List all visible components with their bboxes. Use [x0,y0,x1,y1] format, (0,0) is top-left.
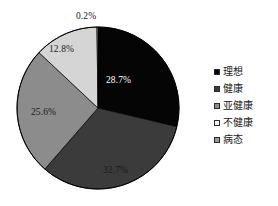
legend-item-unhealthy[interactable]: 不健康 [214,114,278,131]
legend-item-ideal[interactable]: 理想 [214,63,278,80]
pie-svg [0,0,196,206]
legend-label-healthy: 健康 [223,84,243,94]
pie-chart: 28.7% 32.7% 25.6% 12.8% 0.2% 理想 健康 亚健康 不… [0,0,278,206]
slice-label-ideal: 28.7% [106,76,131,86]
legend-item-subhealthy[interactable]: 亚健康 [214,97,278,114]
legend-swatch-ideal-icon [214,69,220,75]
legend-swatch-unhealthy-icon [214,120,220,126]
legend-swatch-morbid-icon [214,137,220,143]
legend-label-subhealthy: 亚健康 [223,101,253,111]
slice-label-morbid: 0.2% [76,12,96,22]
slice-label-healthy: 32.7% [103,166,128,176]
legend-swatch-subhealthy-icon [214,103,220,109]
legend-label-ideal: 理想 [223,67,243,77]
legend-label-unhealthy: 不健康 [223,118,253,128]
slice-label-unhealthy: 12.8% [49,45,74,55]
legend-swatch-healthy-icon [214,86,220,92]
chart-legend: 理想 健康 亚健康 不健康 病态 [214,63,278,148]
legend-item-morbid[interactable]: 病态 [214,131,278,148]
legend-item-healthy[interactable]: 健康 [214,80,278,97]
pie-plot-area: 28.7% 32.7% 25.6% 12.8% 0.2% [0,0,196,206]
slice-label-subhealthy: 25.6% [31,108,56,118]
legend-label-morbid: 病态 [223,135,243,145]
